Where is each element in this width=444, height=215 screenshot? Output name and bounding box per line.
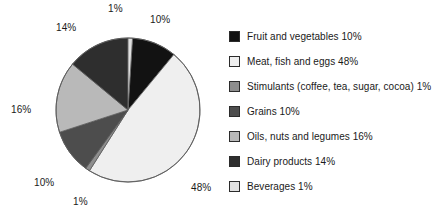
legend-swatch-icon (229, 181, 240, 192)
legend-item-label: Dairy products 14% (247, 156, 335, 168)
legend-swatch-icon (229, 56, 240, 67)
legend-swatch-icon (229, 81, 240, 92)
pie-value-label-beverages: 1% (108, 3, 123, 14)
pie-value-label-grains: 10% (34, 177, 54, 188)
legend-item-label: Meat, fish and eggs 48% (247, 56, 358, 68)
legend-item-label: Grains 10% (247, 106, 300, 118)
pie-value-label-meat: 48% (191, 182, 211, 193)
legend-swatch-icon (229, 156, 240, 167)
legend-swatch-icon (229, 106, 240, 117)
legend-item-label: Stimulants (coffee, tea, sugar, cocoa) 1… (247, 81, 431, 93)
legend-item-grains[interactable]: Grains 10% (229, 99, 443, 124)
pie-value-label-fruit: 10% (150, 14, 170, 25)
pie-value-label-stimulants: 1% (73, 196, 88, 207)
pie-value-label-dairy: 14% (56, 22, 76, 33)
legend-item-stimulants[interactable]: Stimulants (coffee, tea, sugar, cocoa) 1… (229, 74, 443, 99)
legend-item-dairy-products[interactable]: Dairy products 14% (229, 149, 443, 174)
legend-item-label: Oils, nuts and legumes 16% (247, 131, 373, 143)
pie-chart-figure: 1%10%48%1%10%16%14% Fruit and vegetables… (0, 0, 444, 215)
legend-swatch-icon (229, 131, 240, 142)
pie-value-label-oils: 16% (11, 104, 31, 115)
pie-chart-plot-area: 1%10%48%1%10%16%14% (0, 0, 228, 215)
legend-swatch-icon (229, 31, 240, 42)
legend-item-oils-nuts-and-legumes[interactable]: Oils, nuts and legumes 16% (229, 124, 443, 149)
legend-item-beverages[interactable]: Beverages 1% (229, 174, 443, 199)
legend-item-fruit-and-vegetables[interactable]: Fruit and vegetables 10% (229, 24, 443, 49)
legend-item-meat-fish-and-eggs[interactable]: Meat, fish and eggs 48% (229, 49, 443, 74)
legend-item-label: Fruit and vegetables 10% (247, 31, 362, 43)
chart-legend: Fruit and vegetables 10%Meat, fish and e… (229, 24, 443, 199)
legend-item-label: Beverages 1% (247, 181, 313, 193)
